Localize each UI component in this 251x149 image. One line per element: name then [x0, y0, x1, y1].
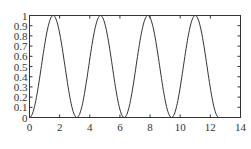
- plot-area-frame: [30, 16, 241, 118]
- x-tick-label: 10: [175, 121, 187, 133]
- x-tick-label: 4: [87, 121, 93, 133]
- y-tick-label: 0.9: [14, 20, 28, 32]
- x-tick-label: 14: [235, 121, 247, 133]
- y-tick-label: 1: [22, 10, 28, 22]
- x-tick-label: 8: [147, 121, 153, 133]
- sine-squared-line-chart: 00.10.20.30.40.50.60.70.80.91 0246810121…: [0, 0, 251, 149]
- x-tick-label: 0: [27, 121, 33, 133]
- series-line-sin-squared: [30, 16, 219, 118]
- x-tick-label: 2: [57, 121, 63, 133]
- x-tick-label: 6: [117, 121, 123, 133]
- x-tick-label: 12: [205, 121, 216, 133]
- y-tick-label: 0.4: [14, 71, 28, 83]
